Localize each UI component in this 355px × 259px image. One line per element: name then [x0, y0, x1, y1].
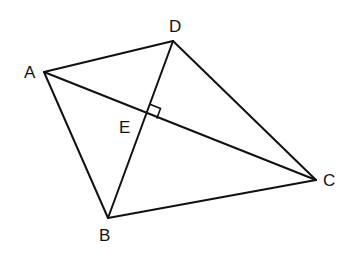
diagonal-DB: [108, 41, 173, 218]
point-label-C: C: [323, 172, 335, 189]
point-label-D: D: [169, 18, 181, 35]
point-label-B: B: [99, 227, 110, 244]
segment-DC: [173, 41, 316, 180]
point-label-A: A: [24, 64, 35, 81]
segment-CB: [108, 180, 316, 218]
diagram-canvas: [0, 0, 355, 259]
geometry-diagram: A D E C B: [0, 0, 355, 259]
segment-AD: [44, 41, 173, 72]
point-label-E: E: [119, 119, 130, 136]
